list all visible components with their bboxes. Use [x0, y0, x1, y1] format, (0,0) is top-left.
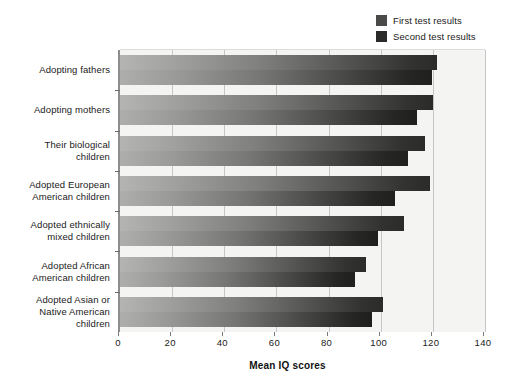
bar-second-test — [120, 272, 355, 287]
category-label-line: American children — [10, 272, 110, 284]
plot-area — [118, 50, 485, 332]
x-axis-tick-label: 80 — [321, 337, 332, 348]
category-label: Adopted EuropeanAmerican children — [10, 179, 110, 203]
legend-label-first-test: First test results — [393, 15, 462, 26]
category-label-line: American children — [10, 191, 110, 203]
legend-item-first-test: First test results — [376, 14, 476, 26]
x-axis-tick — [327, 332, 328, 336]
y-axis-tick — [115, 211, 120, 212]
category-label-line: children — [10, 318, 110, 330]
category-label: Adopted Asian orNative Americanchildren — [10, 294, 110, 330]
category-label-line: Adopted ethnically — [10, 219, 110, 231]
bar-second-test — [120, 110, 417, 125]
y-axis-tick — [115, 90, 120, 91]
x-axis-tick — [170, 332, 171, 336]
bar-first-test — [120, 95, 433, 110]
x-axis-tick — [118, 332, 119, 336]
x-axis-tick-label: 60 — [269, 337, 280, 348]
bar-second-test — [120, 312, 372, 327]
category-label-line: Native American — [10, 306, 110, 318]
y-axis-tick — [115, 171, 120, 172]
y-axis-tick — [115, 131, 120, 132]
legend-swatch-first-test — [376, 15, 387, 26]
x-axis-tick — [222, 332, 223, 336]
x-axis-title-text: Mean IQ scores — [249, 360, 326, 371]
bar-first-test — [120, 55, 437, 70]
category-label: Adopting fathers — [10, 64, 110, 76]
category-label-line: Their biological — [10, 139, 110, 151]
bar-rows — [120, 50, 485, 332]
bar-group — [120, 297, 485, 327]
category-label-line: Adopted African — [10, 260, 110, 272]
x-axis-tick — [483, 332, 484, 336]
bar-first-test — [120, 136, 425, 151]
legend-swatch-second-test — [376, 31, 387, 42]
category-label: Their biologicalchildren — [10, 139, 110, 163]
x-axis-tick-label: 140 — [475, 337, 492, 348]
x-axis-tick — [431, 332, 432, 336]
category-label-line: children — [10, 151, 110, 163]
chart-legend: First test results Second test results — [376, 14, 476, 42]
x-axis-title: Mean IQ scores — [0, 360, 515, 371]
x-axis-tick-label: 20 — [165, 337, 176, 348]
bar-group — [120, 176, 485, 206]
category-label-line: Adopted European — [10, 179, 110, 191]
bar-first-test — [120, 257, 366, 272]
category-label: Adopting mothers — [10, 104, 110, 116]
bar-group — [120, 95, 485, 125]
x-axis-tick-label: 100 — [370, 337, 387, 348]
bar-second-test — [120, 231, 378, 246]
category-label-line: Adopting mothers — [10, 104, 110, 116]
bar-second-test — [120, 70, 432, 85]
category-label-line: mixed children — [10, 231, 110, 243]
y-axis-tick — [115, 251, 120, 252]
bar-first-test — [120, 216, 404, 231]
category-label-line: Adopting fathers — [10, 64, 110, 76]
bar-group — [120, 55, 485, 85]
x-axis-tick — [379, 332, 380, 336]
y-axis-tick — [115, 292, 120, 293]
category-label-line: Adopted Asian or — [10, 294, 110, 306]
x-axis-tick — [274, 332, 275, 336]
bar-first-test — [120, 176, 430, 191]
legend-item-second-test: Second test results — [376, 30, 476, 42]
bar-second-test — [120, 191, 395, 206]
x-axis-tick-label: 40 — [217, 337, 228, 348]
category-label: Adopted ethnicallymixed children — [10, 219, 110, 243]
bar-group — [120, 136, 485, 166]
legend-label-second-test: Second test results — [393, 31, 476, 42]
category-label: Adopted AfricanAmerican children — [10, 260, 110, 284]
x-axis-tick-label: 120 — [422, 337, 439, 348]
bar-second-test — [120, 151, 408, 166]
gridline — [485, 50, 486, 332]
bar-chart: First test results Second test results A… — [0, 0, 515, 391]
bar-group — [120, 216, 485, 246]
bar-first-test — [120, 297, 383, 312]
bar-group — [120, 257, 485, 287]
x-axis-tick-label: 0 — [115, 337, 121, 348]
